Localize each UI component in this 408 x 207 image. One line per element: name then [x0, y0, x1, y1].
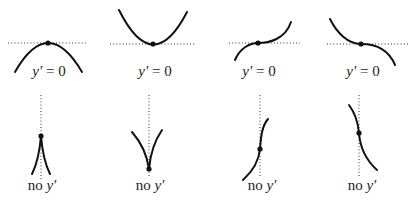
label-cusp-up: no y′	[28, 178, 57, 193]
panel-vertical-tangent-rising	[243, 95, 268, 180]
vertical-tangent-curve	[243, 119, 268, 180]
label-local-minimum: y′ = 0	[138, 64, 171, 79]
cusp-left-branch	[32, 136, 41, 174]
label-horizontal-inflection-rising: y′ = 0	[242, 64, 275, 79]
critical-point	[150, 41, 155, 46]
critical-point	[356, 130, 361, 135]
concave-up-curve	[119, 10, 187, 45]
vertical-tangent-curve	[349, 105, 377, 170]
panel-cusp-down	[132, 95, 162, 176]
panel-cusp-up	[32, 95, 50, 181]
panel-horizontal-inflection-falling	[327, 19, 408, 65]
cusp-right-branch	[41, 136, 50, 174]
panel-local-minimum	[110, 10, 195, 47]
cusp-left-branch	[132, 132, 149, 169]
cusp-right-branch	[149, 130, 162, 169]
label-cusp-down: no y′	[136, 178, 165, 193]
label-vertical-tangent-falling: no y′	[348, 178, 377, 193]
panel-vertical-tangent-falling	[349, 95, 377, 177]
critical-point	[358, 41, 363, 46]
critical-point	[146, 166, 151, 171]
label-horizontal-inflection-falling: y′ = 0	[346, 64, 379, 79]
critical-point	[45, 40, 50, 45]
label-local-maximum: y′ = 0	[32, 64, 65, 79]
critical-point	[257, 146, 262, 151]
diagram-canvas	[0, 0, 408, 207]
critical-point	[255, 40, 260, 45]
panel-horizontal-inflection-rising	[229, 22, 300, 60]
critical-point	[38, 133, 43, 138]
label-vertical-tangent-rising: no y′	[248, 178, 277, 193]
rising-inflection-curve	[235, 22, 291, 60]
